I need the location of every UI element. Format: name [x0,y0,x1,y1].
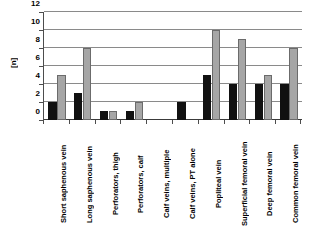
bar-light [57,75,66,120]
x-tick [249,120,250,124]
bar-dark [280,84,289,120]
y-tick-6 [39,66,43,67]
bar-dark [100,111,109,120]
x-tick [43,120,44,124]
x-axis-ticks [43,120,301,125]
y-tick-label-4: 4 [18,72,40,80]
y-tick-label-0: 0 [18,108,40,116]
bar-dark [74,93,83,120]
x-label-long-saphenous-vein: Long saphenous vein [69,126,95,242]
bar-dark [229,84,238,120]
x-label-superficial-femoral-vein: Superficial femoral vein [224,126,250,242]
x-label-perforators-thigh: Perforators, thigh [95,126,121,242]
x-label-perforators-calf: Perforators, calf [120,126,146,242]
x-tick [172,120,173,124]
y-tick-4 [39,84,43,85]
x-tick [300,120,301,124]
bar-light [109,111,118,120]
bar-group [121,12,147,120]
bar-light [212,30,221,120]
bars-layer [44,12,302,120]
y-tick-label-2: 2 [18,90,40,98]
plot-area [43,12,301,120]
y-tick-12 [39,12,43,13]
x-label-calf-veins-multiple: Calf veins, multiple [146,126,172,242]
bar-group [199,12,225,120]
bar-light [289,48,298,120]
bar-light [238,39,247,120]
bar-chart: [n] 121086420 Short saphenous veinLong s… [0,0,310,245]
x-label-short-saphenous-vein: Short saphenous vein [43,126,69,242]
bar-group [276,12,302,120]
y-tick-10 [39,30,43,31]
x-label-popliteal-vein: Popliteal vein [198,126,224,242]
x-label-common-femoral-vein: Common femoral vein [275,126,301,242]
bar-dark [177,102,186,120]
y-tick-label-12: 12 [18,0,40,8]
x-tick [95,120,96,124]
x-tick [69,120,70,124]
bar-group [44,12,70,120]
x-axis-category-labels: Short saphenous veinLong saphenous veinP… [43,126,301,244]
bar-group [70,12,96,120]
bar-group [250,12,276,120]
y-tick-label-8: 8 [18,36,40,44]
bar-group [147,12,173,120]
bar-light [83,48,92,120]
x-tick [120,120,121,124]
x-tick [275,120,276,124]
x-label-calf-veins-pt-alone: Calf veins, PT alone [172,126,198,242]
bar-dark [255,84,264,120]
y-axis-tick-labels: 121086420 [18,12,40,120]
bar-light [135,102,144,120]
x-label-deep-femoral-vein: Deep femoral vein [249,126,275,242]
bar-group [96,12,122,120]
bar-light [264,75,273,120]
x-tick [146,120,147,124]
y-tick-8 [39,48,43,49]
x-tick [224,120,225,124]
bar-dark [126,111,135,120]
y-tick-label-6: 6 [18,54,40,62]
bar-group [173,12,199,120]
y-tick-2 [39,102,43,103]
x-tick [198,120,199,124]
y-tick-label-10: 10 [18,18,40,26]
bar-dark [48,102,57,120]
bar-group [225,12,251,120]
bar-dark [203,75,212,120]
